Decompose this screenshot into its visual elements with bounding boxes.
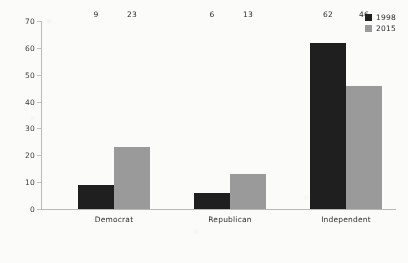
bar-value-label: 46 — [359, 10, 369, 19]
y-tick-label: 0 — [30, 205, 35, 214]
y-tick-label: 60 — [25, 43, 35, 52]
bar-value-label: 62 — [323, 10, 333, 19]
bar-republican-2015[interactable] — [230, 174, 266, 209]
bar-independent-2015[interactable] — [346, 86, 382, 210]
x-axis-label-independent: Independent — [303, 215, 389, 224]
bar-column-independent-2015[interactable]: 46 — [346, 21, 382, 209]
y-tick-mark — [37, 75, 41, 76]
y-tick-mark — [37, 48, 41, 49]
bar-value-label: 9 — [94, 10, 99, 19]
bar-group-bars: 62 46 — [303, 21, 389, 209]
plot-area: 70 60 50 40 30 20 10 0 — [41, 21, 396, 210]
bar-group-bars: 6 13 — [187, 21, 273, 209]
y-tick-mark — [37, 128, 41, 129]
bar-group-bars: 9 23 — [71, 21, 157, 209]
y-tick-mark — [37, 209, 41, 210]
bar-column-republican-2015[interactable]: 13 — [230, 21, 266, 209]
y-tick-label: 30 — [25, 124, 35, 133]
bar-value-label: 13 — [243, 10, 253, 19]
bar-democrat-2015[interactable] — [114, 147, 150, 209]
x-axis-line — [41, 209, 396, 210]
bar-group-republican: 6 13 Republican — [187, 21, 273, 209]
bar-column-democrat-2015[interactable]: 23 — [114, 21, 150, 209]
bar-independent-1998[interactable] — [310, 43, 346, 210]
bar-chart: 1998 2015 70 60 50 40 30 — [0, 0, 408, 263]
y-tick-label: 10 — [25, 178, 35, 187]
bar-republican-1998[interactable] — [194, 193, 230, 209]
bar-democrat-1998[interactable] — [78, 185, 114, 209]
y-axis-line — [41, 21, 42, 210]
bar-group-democrat: 9 23 Democrat — [71, 21, 157, 209]
bar-column-republican-1998[interactable]: 6 — [194, 21, 230, 209]
y-tick-label: 20 — [25, 151, 35, 160]
y-tick-label: 40 — [25, 97, 35, 106]
y-tick-label: 70 — [25, 17, 35, 26]
y-tick-mark — [37, 155, 41, 156]
bar-value-label: 6 — [210, 10, 215, 19]
y-tick-label: 50 — [25, 70, 35, 79]
y-tick-mark — [37, 182, 41, 183]
y-tick-mark — [37, 102, 41, 103]
bar-group-independent: 62 46 Independent — [303, 21, 389, 209]
bar-value-label: 23 — [127, 10, 137, 19]
y-tick-mark — [37, 21, 41, 22]
x-axis-label-democrat: Democrat — [71, 215, 157, 224]
bar-column-independent-1998[interactable]: 62 — [310, 21, 346, 209]
bar-column-democrat-1998[interactable]: 9 — [78, 21, 114, 209]
x-axis-label-republican: Republican — [187, 215, 273, 224]
